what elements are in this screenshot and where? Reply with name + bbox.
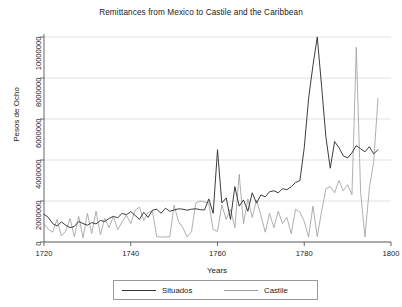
legend-swatch-castile	[224, 290, 258, 291]
y-tick-label: 2000000	[34, 201, 43, 241]
axis-lines	[44, 34, 391, 242]
x-tick-label: 1760	[202, 249, 234, 258]
legend: Situados Castile	[113, 280, 318, 300]
y-tick-label: 8000000	[34, 78, 43, 118]
data-series	[44, 37, 378, 238]
legend-swatch-situados	[122, 290, 156, 291]
legend-label-castile: Castile	[264, 286, 288, 295]
chart-figure: Remittances from Mexico to Castile and t…	[0, 0, 402, 307]
plot-area	[0, 0, 402, 307]
legend-entry-situados: Situados	[122, 281, 192, 299]
y-tick-label: 10000000	[34, 37, 43, 77]
x-tick-label: 1720	[28, 249, 60, 258]
x-tick-label: 1740	[115, 249, 147, 258]
y-tick-label: 6000000	[34, 119, 43, 159]
legend-entry-castile: Castile	[224, 281, 288, 299]
x-tick-label: 1780	[288, 249, 320, 258]
y-tick-label: 4000000	[34, 160, 43, 200]
y-tick-label: 0	[34, 242, 43, 282]
legend-label-situados: Situados	[162, 286, 192, 295]
tick-marks	[40, 37, 391, 246]
x-tick-label: 1800	[375, 249, 402, 258]
